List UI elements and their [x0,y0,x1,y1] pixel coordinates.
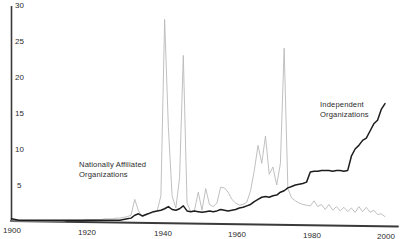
series-line-nationally-affiliated [12,19,386,221]
y-tick-label-5: 5 [17,181,22,190]
independent-annotation: Independent Organizations [320,100,369,119]
y-tick-label-15: 15 [15,109,24,118]
nationally-affiliated-annotation-line2: Organizations [79,170,146,180]
series-line-independent [12,104,386,221]
x-tick-label-1920: 1920 [75,228,99,237]
independent-annotation-line2: Organizations [320,110,369,120]
y-tick-label-30: 30 [15,1,24,10]
y-tick-label-10: 10 [15,145,24,154]
x-axis-line [11,221,398,227]
x-tick-label-1900: 1900 [0,226,24,235]
chart-plot-area [0,0,401,239]
x-tick-label-1960: 1960 [225,230,249,239]
nationally-affiliated-annotation-line1: Nationally Affiliated [79,160,146,170]
y-tick-label-25: 25 [15,37,24,46]
x-tick-label-1940: 1940 [151,229,175,238]
x-tick-label-2000: 2000 [374,232,398,239]
independent-annotation-line1: Independent [320,100,369,110]
y-tick-label-20: 20 [15,73,24,82]
chart-container: 30 25 20 15 10 5 1900 1920 1940 1960 198… [0,0,401,239]
nationally-affiliated-annotation: Nationally Affiliated Organizations [79,160,146,179]
x-tick-label-1980: 1980 [300,231,324,239]
